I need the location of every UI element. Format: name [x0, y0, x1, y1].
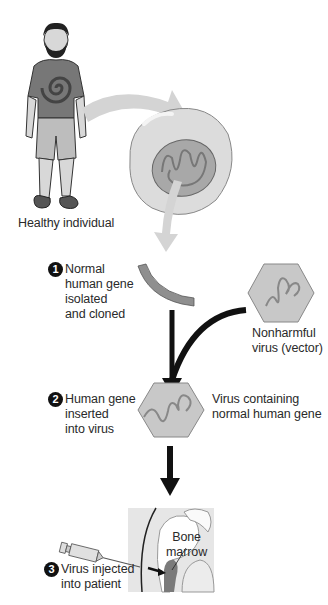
- step-1-label: 1Normal human gene isolated and cloned: [48, 262, 134, 322]
- recombinant-virus-illustration: [136, 381, 206, 439]
- step-2-label: 2Human gene inserted into virus: [48, 392, 136, 437]
- virus-containing-gene-label: Virus containing normal human gene: [212, 392, 321, 422]
- healthy-individual-label: Healthy individual: [18, 216, 114, 231]
- bone-marrow-label: Bone marrow: [166, 530, 207, 560]
- step-2-number: 2: [48, 392, 63, 407]
- step-1-number: 1: [48, 262, 63, 277]
- step-3-number: 3: [44, 562, 59, 577]
- arrow-cell-down-icon: [146, 178, 206, 258]
- step-3-label: 3Virus injected into patient: [44, 562, 134, 592]
- gene-fragment-illustration: [136, 262, 206, 312]
- arrow-down-icon: [158, 446, 182, 496]
